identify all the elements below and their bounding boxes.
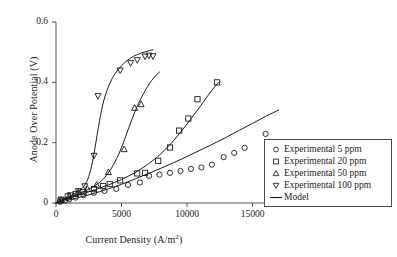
data-point-circle xyxy=(137,180,142,185)
legend-marker-triangle-down-icon xyxy=(268,180,284,191)
data-point-circle xyxy=(157,172,162,177)
data-point-circle xyxy=(114,186,119,191)
data-point-circle xyxy=(274,147,279,152)
data-point-square xyxy=(195,97,200,102)
data-point-circle xyxy=(167,170,172,175)
y-tick-label: 0.2 xyxy=(18,137,48,147)
data-point-circle xyxy=(263,131,268,136)
y-tick-label: 0 xyxy=(18,197,48,207)
data-point-triangle-down xyxy=(150,54,156,60)
legend-marker-triangle-up-icon xyxy=(268,168,284,179)
y-axis-title: Anode Over Potential (V) xyxy=(28,15,39,205)
legend-marker-circle-icon xyxy=(268,144,284,155)
data-point-circle xyxy=(178,168,183,173)
data-point-triangle-down xyxy=(117,68,123,74)
axes-layer xyxy=(52,22,268,207)
legend-row[interactable]: Experimental 100 ppm xyxy=(268,179,387,191)
model-curve xyxy=(56,72,159,203)
x-tick-label: 0 xyxy=(36,209,76,219)
legend-marker-line-icon xyxy=(268,192,284,203)
chart-figure: Anode Over Potential (V) Current Density… xyxy=(0,0,397,257)
data-point-triangle-down xyxy=(273,183,279,188)
y-tick-label: 0.4 xyxy=(18,76,48,86)
model-curve xyxy=(56,82,218,203)
legend-row[interactable]: Experimental 20 ppm xyxy=(268,155,387,167)
data-point-circle xyxy=(209,162,214,167)
data-point-circle xyxy=(199,165,204,170)
data-point-triangle-down xyxy=(128,61,134,67)
legend-row[interactable]: Experimental 50 ppm xyxy=(268,167,387,179)
data-point-circle xyxy=(125,182,130,187)
chart-legend: Experimental 5 ppmExperimental 20 ppmExp… xyxy=(264,139,392,207)
data-point-circle xyxy=(221,155,226,160)
legend-label: Experimental 100 ppm xyxy=(284,179,371,191)
data-point-circle xyxy=(188,166,193,171)
legend-label: Experimental 50 ppm xyxy=(284,167,366,179)
data-point-circle xyxy=(232,150,237,155)
data-point-circle xyxy=(242,145,247,150)
data-point-triangle-down xyxy=(134,58,140,64)
x-axis-title: Current Density (A/m2) xyxy=(0,233,268,245)
model-curves-layer xyxy=(56,50,279,203)
data-point-triangle-up xyxy=(273,170,279,175)
legend-label: Experimental 20 ppm xyxy=(284,155,366,167)
data-point-triangle-down xyxy=(95,94,101,100)
data-points-layer xyxy=(57,53,268,204)
x-tick-label: 10000 xyxy=(167,209,207,219)
x-tick-label: 15000 xyxy=(233,209,273,219)
legend-row[interactable]: Model xyxy=(268,191,387,203)
data-point-square xyxy=(156,158,161,163)
y-tick-label: 0.6 xyxy=(18,16,48,26)
data-point-square xyxy=(167,145,172,150)
legend-label: Model xyxy=(284,191,309,203)
x-axis-title-tail: ) xyxy=(179,234,182,245)
legend-label: Experimental 5 ppm xyxy=(284,143,362,155)
x-tick-label: 5000 xyxy=(102,209,142,219)
x-axis-title-base: Current Density (A/m xyxy=(86,234,176,245)
legend-marker-square-icon xyxy=(268,156,284,167)
data-point-square xyxy=(274,159,279,164)
legend-row[interactable]: Experimental 5 ppm xyxy=(268,143,387,155)
